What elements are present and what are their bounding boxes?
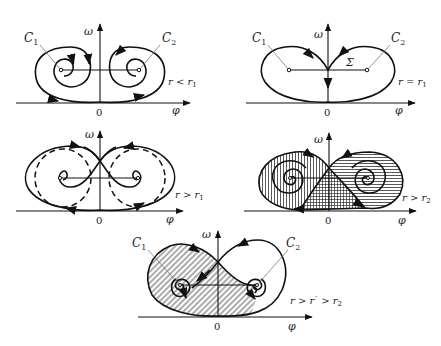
label-c1: C1 bbox=[24, 31, 38, 47]
label-c1: C1 bbox=[132, 236, 146, 252]
origin-label: 0 bbox=[324, 107, 330, 118]
focus-c2 bbox=[367, 177, 370, 180]
label-c2: C2 bbox=[391, 31, 405, 47]
panel-r-equals-r1: C1 C2 Σ ω 0 φ r = r1 bbox=[246, 24, 427, 118]
origin-label: 0 bbox=[96, 215, 102, 226]
focus-c2 bbox=[136, 176, 139, 179]
panel-r-greater-r1: ω 0 φ r > r1 bbox=[16, 128, 204, 226]
origin-label: 0 bbox=[214, 321, 220, 332]
origin-label: 0 bbox=[96, 107, 102, 118]
condition-label: r > r2 bbox=[402, 192, 431, 205]
phi-label: φ bbox=[395, 104, 403, 117]
label-c2: C2 bbox=[162, 31, 176, 47]
spiral-trajectory-c1 bbox=[35, 47, 100, 102]
omega-label: ω bbox=[84, 25, 93, 38]
origin-label: 0 bbox=[325, 215, 331, 226]
separatrix-right bbox=[84, 147, 141, 187]
omega-label: ω bbox=[85, 128, 94, 141]
condition-label: r = r1 bbox=[398, 76, 427, 89]
panel-r-greater-r2: ω 0 φ r > r2 bbox=[244, 133, 431, 227]
omega-label: ω bbox=[202, 228, 211, 241]
phi-label: φ bbox=[398, 214, 406, 227]
phase-portrait-figure: C1 C2 ω 0 φ r < r1 C1 C2 Σ ω 0 φ r = r1 bbox=[0, 0, 441, 346]
panel-r-greater-rminus-greater-r2: C1 C2 ω 0 φ r > r⁻ > r2 bbox=[132, 228, 342, 333]
condition-label: r > r1 bbox=[175, 189, 204, 202]
focus-c1 bbox=[58, 176, 61, 179]
omega-label: ω bbox=[314, 28, 323, 41]
phi-label: φ bbox=[166, 213, 174, 226]
condition-label: r > r⁻ > r2 bbox=[290, 294, 342, 308]
label-c1: C1 bbox=[252, 31, 266, 47]
label-c2: C2 bbox=[286, 236, 300, 252]
phi-label: φ bbox=[288, 320, 296, 333]
panel-r-less-r1: C1 C2 ω 0 φ r < r1 bbox=[16, 24, 197, 118]
spiral-trajectory-c2 bbox=[100, 47, 165, 102]
focus-c1 bbox=[289, 177, 292, 180]
omega-label: ω bbox=[314, 133, 323, 146]
sigma-label: Σ bbox=[345, 56, 354, 69]
condition-label: r < r1 bbox=[168, 76, 197, 89]
phi-label: φ bbox=[172, 104, 180, 117]
separatrix-left bbox=[59, 147, 116, 187]
